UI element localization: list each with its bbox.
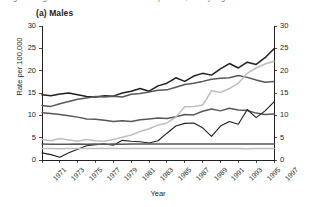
series-line-series-2 bbox=[42, 76, 274, 107]
series-line-series-4 bbox=[42, 61, 274, 141]
chart-series-group bbox=[42, 49, 274, 158]
line-chart-plot bbox=[0, 0, 316, 207]
series-line-series-3 bbox=[42, 108, 274, 121]
figure-panel-a-males: Figure 1 Age-standardised incidence rate… bbox=[0, 0, 316, 207]
axis-frame bbox=[42, 26, 274, 160]
